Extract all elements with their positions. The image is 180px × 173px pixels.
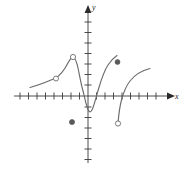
open-point-right-low <box>115 121 120 126</box>
x-axis-label: x <box>174 92 179 101</box>
open-points-group <box>54 54 121 126</box>
x-axis-group <box>14 93 175 100</box>
open-point-left-mid <box>54 76 59 81</box>
open-point-local-max <box>70 54 75 59</box>
y-axis-arrow-icon <box>85 5 92 13</box>
curve-group <box>30 56 150 124</box>
closed-points-group <box>69 60 120 125</box>
y-axis-label: y <box>91 3 96 12</box>
y-axis-group <box>85 5 92 163</box>
coordinate-plane: y x <box>0 0 180 173</box>
x-axis-arrow-icon <box>167 93 175 100</box>
graph-figure: y x <box>0 0 180 173</box>
curve-left-branch <box>30 56 117 112</box>
closed-point-upper-right <box>115 60 120 65</box>
closed-point-isolated-lower-left <box>69 119 74 124</box>
